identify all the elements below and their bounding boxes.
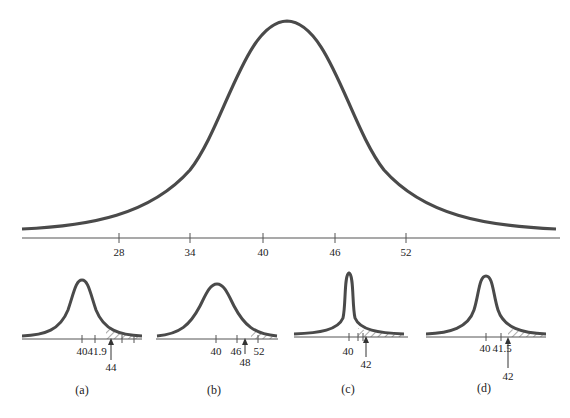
curve-c [294, 273, 404, 334]
sampling-distribution-diagram: 28 34 40 46 52 40 41.9 44 (a) 40 46 52 4… [0, 0, 570, 418]
panel-b: 40 46 52 48 (b) [156, 284, 278, 397]
tick-label: 40 [258, 246, 270, 258]
tick-label: 40 [480, 342, 492, 354]
panel-caption: (b) [207, 383, 221, 397]
tick-label: 52 [254, 345, 265, 357]
tick-label: 52 [401, 246, 412, 258]
tick-label: 46 [330, 246, 342, 258]
panel-c: 40 42 (c) [294, 273, 408, 396]
panel-d: 40 41.5 42 (d) [426, 276, 546, 395]
main-distribution: 28 34 40 46 52 [22, 21, 560, 258]
tick-label: 40 [211, 345, 223, 357]
panel-caption: (d) [477, 381, 491, 395]
curve-d [426, 276, 546, 334]
arrow-label: 44 [106, 361, 118, 373]
tick-label: 34 [185, 246, 197, 258]
arrow-label: 42 [503, 370, 514, 382]
main-normal-curve [22, 21, 556, 229]
arrow-label: 48 [240, 356, 252, 368]
panel-a: 40 41.9 44 (a) [22, 280, 142, 397]
tick-label: 41.9 [87, 345, 107, 357]
arrow-label: 42 [361, 358, 372, 370]
tick-label: 40 [77, 345, 89, 357]
curve-a [22, 280, 142, 336]
curve-b [157, 284, 277, 336]
panel-caption: (a) [75, 383, 88, 397]
tick-label: 40 [343, 345, 355, 357]
panel-caption: (c) [341, 382, 354, 396]
tick-label: 28 [114, 246, 126, 258]
